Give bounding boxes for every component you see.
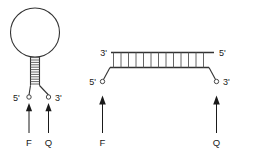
duplex-base-pair-rungs <box>114 53 204 68</box>
open-state-group: 3' 5' 5' 3' F Q <box>89 48 230 148</box>
closed-state-group: 5' 3' F Q <box>11 8 63 148</box>
duplex-top-left-label: 3' <box>100 48 107 58</box>
duplex-quencher-label: Q <box>213 137 220 148</box>
duplex-three-prime-tail <box>209 68 216 80</box>
duplex-five-prime-tail <box>104 68 111 80</box>
hairpin-fluorophore-arrow <box>26 103 32 133</box>
hairpin-three-prime-tail <box>40 86 49 96</box>
diagram-canvas: 5' 3' F Q <box>0 0 256 151</box>
hairpin-loop-circle <box>11 8 60 57</box>
hairpin-three-prime-terminus-circle <box>46 95 50 99</box>
hairpin-three-prime-label: 3' <box>55 93 62 103</box>
duplex-fluorophore-label: F <box>100 137 106 148</box>
hairpin-five-prime-terminus-circle <box>27 95 31 99</box>
hairpin-quencher-label: Q <box>45 137 52 148</box>
duplex-fluorophore-arrow <box>99 96 106 134</box>
duplex-bottom-left-label: 5' <box>89 77 96 87</box>
hairpin-fluorophore-label: F <box>26 137 32 148</box>
hairpin-base-pair-rungs <box>31 58 40 84</box>
duplex-five-prime-terminus-circle <box>100 79 104 83</box>
duplex-top-right-label: 5' <box>219 48 226 58</box>
hairpin-quencher-arrow <box>45 103 51 133</box>
hairpin-five-prime-label: 5' <box>13 93 20 103</box>
molecular-beacon-figure: 5' 3' F Q <box>0 0 256 151</box>
duplex-three-prime-terminus-circle <box>214 79 218 83</box>
duplex-bottom-right-label: 3' <box>223 77 230 87</box>
duplex-quencher-arrow <box>213 96 220 134</box>
hairpin-five-prime-tail <box>29 86 31 96</box>
